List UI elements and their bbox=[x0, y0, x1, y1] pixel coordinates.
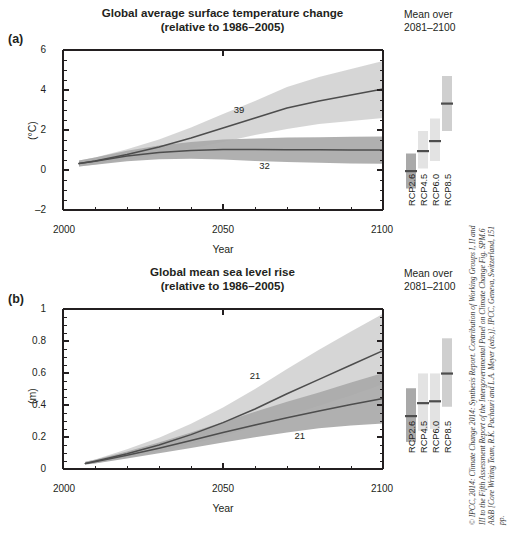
legend-a-label-rcp45: RCP4.5 bbox=[419, 174, 429, 206]
legend-b-head-line1: Mean over bbox=[404, 267, 453, 280]
panel-a-svg: 3932 bbox=[0, 0, 460, 268]
panel-b-legend: Mean over 2081–2100 RCP2.6 RCP4.5 RCP6.0… bbox=[404, 262, 464, 535]
panel-a-legend: Mean over 2081–2100 RCP2.6 RCP4.5 RCP6.0… bbox=[404, 0, 464, 268]
legend-a-label-rcp26: RCP2.6 bbox=[407, 174, 417, 206]
legend-b-label-rcp45: RCP4.5 bbox=[419, 421, 429, 453]
legend-b-head-line2: 2081–2100 bbox=[404, 280, 456, 293]
ipcc-figure-spm6: (a) Global average surface temperature c… bbox=[0, 0, 515, 535]
panel-a-temperature: (a) Global average surface temperature c… bbox=[0, 0, 460, 268]
legend-b-bars bbox=[404, 305, 464, 490]
svg-text:32: 32 bbox=[259, 160, 270, 171]
legend-b-label-rcp85: RCP8.5 bbox=[443, 421, 453, 453]
legend-b-label-rcp60: RCP6.0 bbox=[431, 421, 441, 453]
figure-credit: © IPCC, 2014: Climate Change 2014: Synth… bbox=[468, 225, 506, 525]
svg-text:21: 21 bbox=[295, 430, 306, 441]
panel-b-plot-area: 2121 bbox=[0, 262, 460, 535]
legend-a-label-rcp60: RCP6.0 bbox=[431, 174, 441, 206]
legend-a-label-rcp85: RCP8.5 bbox=[443, 174, 453, 206]
legend-a-head-line1: Mean over bbox=[404, 8, 453, 21]
legend-b-label-rcp26: RCP2.6 bbox=[407, 421, 417, 453]
svg-text:39: 39 bbox=[234, 104, 245, 115]
svg-text:21: 21 bbox=[250, 370, 261, 381]
panel-a-plot-area: 3932 bbox=[0, 0, 460, 268]
legend-a-head-line2: 2081–2100 bbox=[404, 21, 456, 34]
legend-a-bars bbox=[404, 46, 464, 246]
panel-b-svg: 2121 bbox=[0, 262, 460, 535]
panel-b-sealevel: (b) Global mean sea level rise (relative… bbox=[0, 262, 460, 535]
